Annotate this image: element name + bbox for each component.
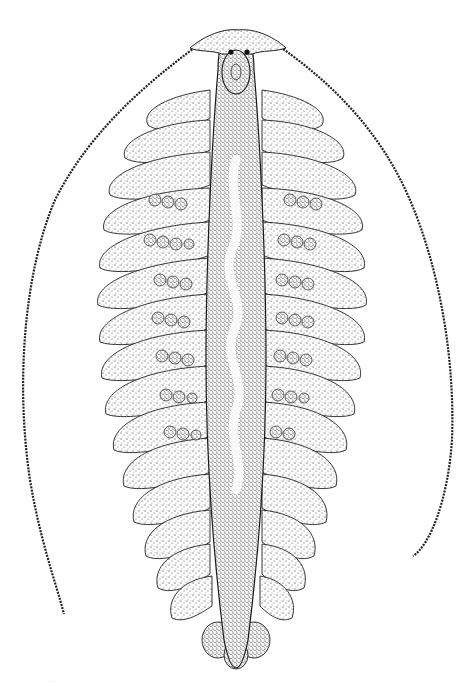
lateral-appendages-left <box>98 90 212 620</box>
central-body <box>206 30 266 668</box>
head <box>190 30 286 94</box>
scientific-illustration <box>0 0 476 686</box>
eyespot-left <box>228 49 233 54</box>
eyespot-right <box>244 49 249 54</box>
faint-caption-mark: ... <box>48 676 57 683</box>
